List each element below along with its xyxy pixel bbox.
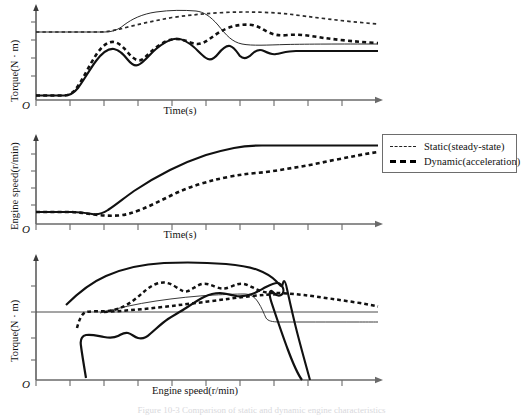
series-static-dashed xyxy=(36,152,378,216)
x-axis-label-time: Time(s) xyxy=(120,229,240,240)
figure-caption: Figure 10-3 Comparison of static and dyn… xyxy=(0,404,523,416)
origin-label: O xyxy=(22,223,30,235)
series-dynamic-dashed xyxy=(36,25,378,96)
series-dynamic-solid xyxy=(36,39,378,96)
series-dynamic-solid xyxy=(36,146,378,215)
origin-label: O xyxy=(22,99,30,111)
legend-box: Static(steady-state) Dynamic(acceleratio… xyxy=(382,134,517,173)
series-dynamic-solid-loop xyxy=(81,283,302,380)
chart-panel-torque-vs-engine-speed: Torque(N · m) O Engine speed(r/min) xyxy=(0,250,395,402)
legend-label-dynamic: Dynamic(acceleration) xyxy=(424,156,520,168)
chart-panel-torque-vs-time: Torque(N · m) O Time(s) xyxy=(0,0,395,124)
legend-item-dynamic: Dynamic(acceleration) xyxy=(390,155,520,168)
series-static-thin-plateau xyxy=(100,294,378,322)
y-axis-label-engine-speed: Engine speed(r/min) xyxy=(9,125,20,230)
x-axis-label-engine-speed: Engine speed(r/min) xyxy=(105,385,285,396)
legend-item-static: Static(steady-state) xyxy=(390,140,504,153)
plot-area-torque-vs-engine-speed xyxy=(0,250,395,402)
x-axis-label-time: Time(s) xyxy=(120,105,240,116)
chart-panel-engine-speed-vs-time: Engine speed(r/min) O Time(s) xyxy=(0,126,395,248)
series-static-upper-solid xyxy=(36,10,378,45)
figure-container: Torque(N · m) O Time(s) xyxy=(0,0,523,416)
legend-key-dynamic-icon xyxy=(390,160,416,163)
axis-group xyxy=(31,134,383,230)
legend-label-static: Static(steady-state) xyxy=(424,141,504,153)
y-axis-label-torque: Torque(N · m) xyxy=(9,0,20,102)
y-axis-label-torque: Torque(N · m) xyxy=(9,257,20,362)
origin-label: O xyxy=(22,378,30,390)
series-dynamic-dashed-upper xyxy=(77,283,378,328)
legend-key-static-icon xyxy=(390,146,416,147)
